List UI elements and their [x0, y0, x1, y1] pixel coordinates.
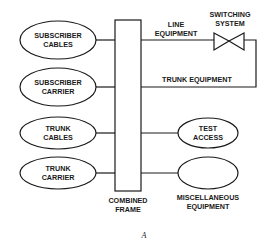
telephone-plant-diagram: SUBSCRIBER CABLES SUBSCRIBER CARRIER TRU…	[0, 0, 269, 242]
label-subscriber-cables-2: CABLES	[43, 40, 73, 49]
combined-frame-box	[115, 20, 141, 191]
label-subscriber-carrier-2: CARRIER	[42, 87, 76, 96]
label-trunk-cables-2: CABLES	[43, 133, 73, 142]
label-subscriber-carrier-1: SUBSCRIBER	[34, 78, 82, 87]
label-test-access-1: TEST	[199, 124, 218, 133]
figure-caption: A	[141, 231, 147, 240]
label-line-equipment-2: EQUIPMENT	[155, 29, 198, 38]
node-misc-equipment	[178, 157, 238, 189]
switching-system-symbol-left	[214, 33, 229, 50]
label-trunk-carrier-1: TRUNK	[45, 164, 71, 173]
label-trunk-equipment: TRUNK EQUIPMENT	[162, 75, 232, 84]
label-switching-system-1: SWITCHING	[209, 10, 251, 19]
label-trunk-cables-1: TRUNK	[45, 124, 71, 133]
label-switching-system-2: SYSTEM	[215, 19, 245, 28]
label-combined-frame-1: COMBINED	[108, 196, 147, 205]
label-misc-equipment-2: EQUIPMENT	[187, 202, 230, 211]
label-test-access-2: ACCESS	[193, 133, 223, 142]
label-trunk-carrier-2: CARRIER	[42, 173, 76, 182]
label-line-equipment-1: LINE	[168, 20, 185, 29]
switching-system-symbol-right	[229, 33, 244, 50]
label-misc-equipment-1: MISCELLANEOUS	[177, 193, 240, 202]
label-combined-frame-2: FRAME	[115, 205, 141, 214]
label-subscriber-cables-1: SUBSCRIBER	[34, 31, 82, 40]
